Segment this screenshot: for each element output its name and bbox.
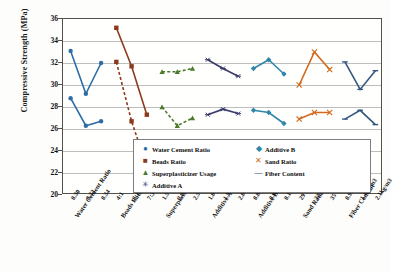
y-axis-tick-mark <box>58 150 62 151</box>
data-point-square <box>114 60 118 64</box>
y-axis-tick-label: 20 <box>28 190 58 199</box>
data-point-asterisk <box>220 107 226 111</box>
dash-icon: — <box>252 169 265 177</box>
y-axis-tick-label: 24 <box>28 146 58 155</box>
y-axis-tick-label: 34 <box>28 36 58 45</box>
data-point-diamond <box>251 108 256 114</box>
y-axis-tick-mark <box>58 40 62 41</box>
y-axis-tick-mark <box>58 194 62 195</box>
data-point-circle <box>99 119 103 123</box>
y-axis-tick-label: 30 <box>28 80 58 89</box>
legend: ●Water Cement Ratio◆Additive B■Beads Rat… <box>133 139 371 193</box>
data-point-square <box>129 119 133 123</box>
diamond-icon: ◆ <box>252 145 265 153</box>
data-point-square <box>145 113 149 117</box>
data-point-circle <box>99 61 103 65</box>
data-point-triangle <box>190 66 195 71</box>
y-axis-tick-label: 36 <box>28 14 58 23</box>
y-axis-tick-label: 32 <box>28 58 58 67</box>
data-point-asterisk <box>220 67 226 71</box>
data-point-circle <box>84 124 88 128</box>
series-line <box>71 51 101 94</box>
y-axis-tick-mark <box>58 128 62 129</box>
data-point-circle <box>68 96 72 100</box>
series-line <box>71 98 101 126</box>
series-line <box>116 28 146 115</box>
data-point-circle <box>68 49 72 53</box>
legend-item[interactable]: ◆Additive B <box>252 145 365 153</box>
series-line <box>208 109 238 115</box>
asterisk-icon: ✳ <box>139 181 152 189</box>
data-point-cross <box>327 67 332 72</box>
legend-item-label: Water Cement Ratio <box>152 146 210 153</box>
legend-item-label: Fiber Content <box>265 170 305 177</box>
data-point-asterisk <box>205 58 211 62</box>
series-line <box>299 113 329 120</box>
circle-icon: ● <box>139 145 152 153</box>
triangle-icon: ▲ <box>139 169 152 177</box>
data-point-square <box>129 64 133 68</box>
legend-row: ■Beads Ratio✕Sand Ratio <box>139 155 365 167</box>
cross-icon: ✕ <box>252 157 265 165</box>
series-line <box>345 62 375 90</box>
legend-item-label: Beads Ratio <box>152 158 186 165</box>
data-point-circle <box>84 92 88 96</box>
y-axis-tick-mark <box>58 62 62 63</box>
legend-item-label: Superplasticizer Usage <box>152 170 216 177</box>
legend-item[interactable]: ■Beads Ratio <box>139 157 252 165</box>
legend-row: ●Water Cement Ratio◆Additive B <box>139 143 365 155</box>
y-axis-tick-label: 26 <box>28 124 58 133</box>
series-line <box>299 52 329 85</box>
data-point-square <box>114 26 118 30</box>
square-icon: ■ <box>139 157 152 165</box>
legend-item[interactable]: ✳Additive A <box>139 181 257 189</box>
legend-item-label: Additive B <box>265 146 295 153</box>
legend-item[interactable]: —Fiber Content <box>252 169 365 177</box>
y-axis-tick-mark <box>58 172 62 173</box>
y-axis-tick-mark <box>58 84 62 85</box>
series-line <box>162 107 192 126</box>
data-point-asterisk <box>235 74 241 78</box>
y-axis-tick-label: 28 <box>28 102 58 111</box>
data-point-asterisk <box>235 112 241 116</box>
legend-item[interactable]: ●Water Cement Ratio <box>139 145 252 153</box>
y-axis-tick-mark <box>58 18 62 19</box>
legend-item-label: Additive A <box>152 182 182 189</box>
data-point-triangle <box>159 104 164 109</box>
series-line <box>345 110 375 124</box>
legend-item-label: Sand Ratio <box>265 158 296 165</box>
y-axis-tick-mark <box>58 106 62 107</box>
y-axis-tick-label: 22 <box>28 168 58 177</box>
legend-row: ▲Superplasticizer Usage—Fiber Content <box>139 167 365 179</box>
legend-row: ✳Additive A <box>139 179 365 191</box>
legend-item[interactable]: ✕Sand Ratio <box>252 157 365 165</box>
data-point-triangle <box>190 115 195 120</box>
data-point-asterisk <box>205 113 211 117</box>
legend-item[interactable]: ▲Superplasticizer Usage <box>139 169 252 177</box>
